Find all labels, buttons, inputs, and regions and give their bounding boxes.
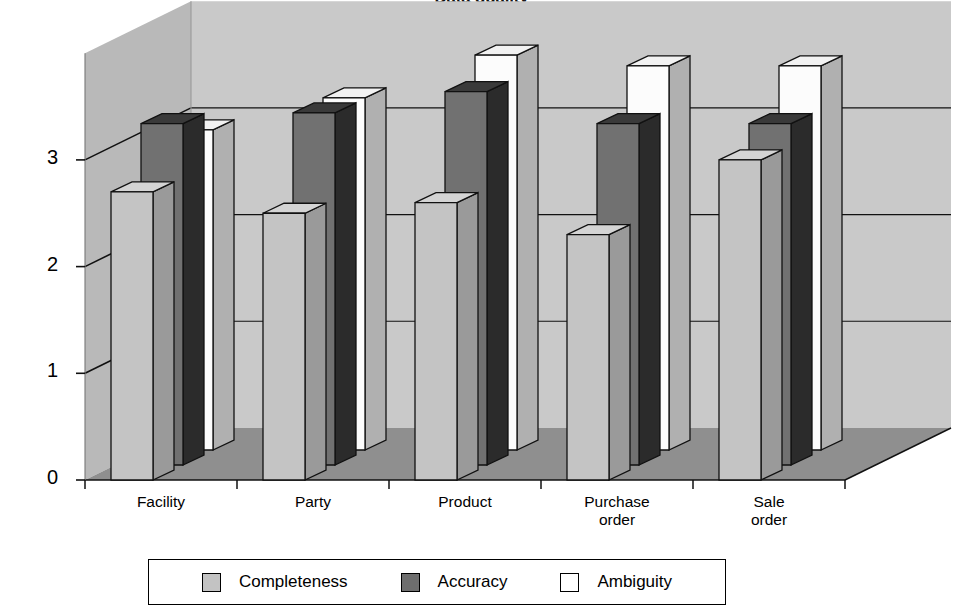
bar-completeness-facility-front (111, 192, 153, 480)
y-axis-label-3: 3 (30, 146, 58, 169)
chart-legend: CompletenessAccuracyAmbiguity (148, 559, 726, 605)
legend-label-completeness: Completeness (239, 572, 348, 592)
bar-completeness-facility-side (153, 182, 174, 480)
legend-item-accuracy[interactable]: Accuracy (401, 572, 508, 592)
x-axis-label-line1: Product (390, 493, 540, 511)
chart-page: Data quality 4—Good, 3—Some issues, 2—Da… (0, 0, 963, 611)
legend-label-ambiguity: Ambiguity (597, 572, 672, 592)
legend-swatch-completeness (202, 573, 221, 592)
legend-item-completeness[interactable]: Completeness (202, 572, 348, 592)
bar-ambiguity-purchase-order-side (669, 56, 690, 450)
legend-swatch-accuracy (401, 573, 420, 592)
bar-ambiguity-facility-side (213, 120, 234, 450)
bar-accuracy-product-side (487, 82, 508, 465)
bar-ambiguity-product-side (517, 45, 538, 450)
x-axis-label-facility: Facility (86, 493, 236, 511)
legend-item-ambiguity[interactable]: Ambiguity (560, 572, 672, 592)
legend-label-accuracy: Accuracy (438, 572, 508, 592)
x-axis-label-line1: Purchase (542, 493, 692, 511)
bar-accuracy-sale-order-side (791, 114, 812, 465)
y-axis-label-0: 0 (30, 466, 58, 489)
chart-plot-area (0, 0, 963, 540)
bar-accuracy-purchase-order-side (639, 114, 660, 465)
bar-completeness-purchase-order-side (609, 225, 630, 480)
bar-completeness-product-front (415, 203, 457, 480)
bar-completeness-party-front (263, 213, 305, 480)
x-axis-label-line1: Sale (694, 493, 844, 511)
x-axis-label-purchase-order: Purchaseorder (542, 493, 692, 529)
x-axis-label-line2: order (542, 511, 692, 529)
bar-completeness-party-side (305, 203, 326, 480)
x-axis-label-line2: order (694, 511, 844, 529)
x-axis-label-line1: Party (238, 493, 388, 511)
bar-completeness-product-side (457, 193, 478, 480)
x-axis-label-sale-order: Saleorder (694, 493, 844, 529)
bar-completeness-sale-order-side (761, 150, 782, 480)
bar-ambiguity-sale-order-side (821, 56, 842, 450)
bar-ambiguity-party-side (365, 88, 386, 450)
bar-completeness-purchase-order-front (567, 235, 609, 480)
bar-completeness-sale-order-front (719, 160, 761, 480)
chart-svg (0, 0, 963, 540)
y-axis-label-2: 2 (30, 253, 58, 276)
bar-accuracy-facility-side (183, 114, 204, 465)
y-axis-label-1: 1 (30, 359, 58, 382)
legend-swatch-ambiguity (560, 573, 579, 592)
bar-accuracy-party-side (335, 103, 356, 465)
x-axis-label-party: Party (238, 493, 388, 511)
x-axis-label-line1: Facility (86, 493, 236, 511)
x-axis-label-product: Product (390, 493, 540, 511)
